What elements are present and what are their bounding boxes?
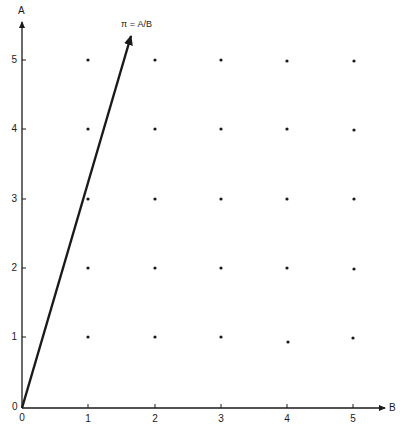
x-tick-label-5: 5 (350, 414, 356, 424)
y-axis-label: A (18, 6, 25, 16)
y-tick-label-1: 1 (5, 332, 17, 342)
y-tick-label-2: 2 (5, 263, 17, 273)
vector-label: π = A/B (121, 20, 152, 29)
diagram-canvas (0, 0, 404, 439)
x-tick-label-2: 2 (152, 414, 158, 424)
y-tick-label-5: 5 (5, 55, 17, 65)
y-tick-label-4: 4 (5, 124, 17, 134)
x-tick-label-1: 1 (85, 414, 91, 424)
lattice-points (86, 58, 355, 343)
origin-label-x: 0 (19, 413, 25, 423)
x-axis-label: B (389, 403, 396, 413)
x-tick-label-3: 3 (218, 414, 224, 424)
ratio-diagram: A B π = A/B 0 0 1 2 3 4 5 1 2 3 4 5 (0, 0, 404, 439)
x-tick-label-4: 4 (284, 414, 290, 424)
origin-label-y: 0 (12, 402, 18, 412)
y-tick-label-3: 3 (5, 194, 17, 204)
ratio-vector-arrow (22, 36, 131, 408)
